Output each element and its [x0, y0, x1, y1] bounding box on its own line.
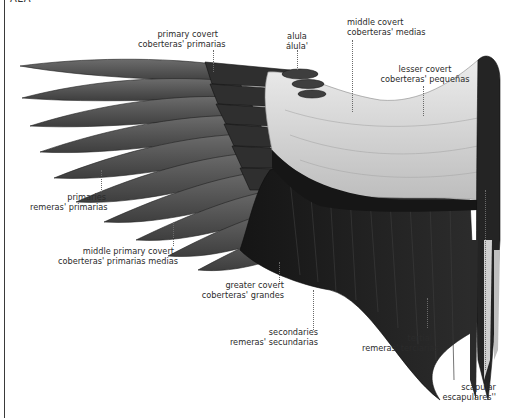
- leader-alula: [297, 50, 298, 70]
- label-es: coberteras' primarias: [138, 39, 218, 49]
- label-scapular: scapular escapulares'': [436, 382, 496, 402]
- label-middle-covert: middle covert coberteras' medias: [347, 17, 426, 37]
- leader-primaries: [101, 170, 102, 192]
- label-es: coberteras' primarias medias: [58, 256, 174, 266]
- label-en: scapular: [436, 382, 496, 392]
- label-en: primary covert: [138, 29, 218, 39]
- label-es: remeras' secundarias: [226, 337, 318, 347]
- label-es: remeras' terciarias: [362, 343, 432, 353]
- label-en: middle primary covert: [58, 246, 174, 256]
- label-es: coberteras' medias: [347, 27, 426, 37]
- leader-lesser-covert: [423, 86, 424, 116]
- label-es: escapulares'': [436, 392, 496, 402]
- label-primary-covert: primary covert coberteras' primarias: [138, 29, 218, 49]
- label-es: coberteras' pequeñas: [380, 74, 470, 84]
- label-en: tertial: [362, 333, 432, 343]
- label-alula: alula álula': [282, 31, 312, 51]
- leader-middle-covert: [352, 40, 353, 112]
- label-en: secondaries: [226, 327, 318, 337]
- label-es: remeras' primarias: [30, 202, 106, 212]
- label-primaries: primaries remeras' primarias: [30, 192, 106, 212]
- leader-middle-primary-covert: [173, 222, 174, 246]
- label-en: lesser covert: [380, 64, 470, 74]
- label-lesser-covert: lesser covert coberteras' pequeñas: [380, 64, 470, 84]
- leader-primary-covert: [213, 50, 214, 72]
- label-en: alula: [282, 31, 312, 41]
- label-secondaries: secondaries remeras' secundarias: [226, 327, 318, 347]
- leader-tertial: [427, 298, 428, 328]
- label-es: álula': [282, 41, 312, 51]
- label-es: coberteras' grandes: [196, 290, 284, 300]
- label-en: primaries: [30, 192, 106, 202]
- leader-scapular: [485, 190, 486, 370]
- label-greater-covert: greater covert coberteras' grandes: [196, 280, 284, 300]
- label-en: middle covert: [347, 17, 426, 27]
- label-middle-primary-covert: middle primary covert coberteras' primar…: [58, 246, 174, 266]
- label-tertial: tertial remeras' terciarias: [362, 333, 432, 353]
- leader-secondaries: [313, 290, 314, 330]
- label-en: greater covert: [196, 280, 284, 290]
